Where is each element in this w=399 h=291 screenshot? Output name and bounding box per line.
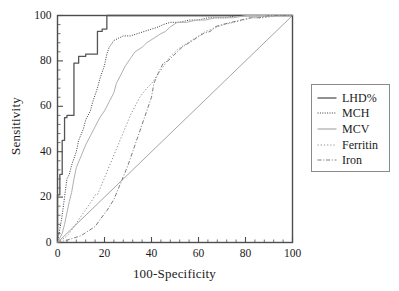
y-tick-label: 60	[22, 99, 52, 111]
legend-line-swatch-icon	[317, 108, 337, 118]
reference-diagonal-line	[58, 16, 293, 243]
x-tick-label: 100	[278, 247, 308, 259]
legend-item-label: Iron	[342, 154, 362, 166]
legend-line-swatch-icon	[317, 155, 337, 165]
legend-item-lhd-[interactable]: LHD%	[312, 90, 389, 106]
legend-line-swatch-icon	[317, 140, 337, 150]
legend-item-mch[interactable]: MCH	[312, 106, 389, 122]
legend-line-swatch-icon	[317, 124, 337, 134]
legend-item-mcv[interactable]: MCV	[312, 121, 389, 137]
x-tick-label: 40	[137, 247, 167, 259]
x-tick-label: 80	[231, 247, 261, 259]
y-axis-title: Sensitivity	[8, 66, 24, 186]
x-tick-label: 60	[184, 247, 214, 259]
y-tick-label: 100	[22, 9, 52, 21]
legend-item-ferritin[interactable]: Ferritin	[312, 137, 389, 153]
y-tick-label: 40	[22, 145, 52, 157]
roc-curve-figure: 100-Specificity Sensitivity 020406080100…	[0, 0, 399, 291]
legend-line-swatch-icon	[317, 93, 337, 103]
x-tick-label: 0	[43, 247, 73, 259]
legend-item-iron[interactable]: Iron	[312, 152, 389, 168]
chart-legend: LHD%MCHMCVFerritinIron	[311, 84, 390, 172]
legend-item-label: LHD%	[342, 92, 377, 104]
x-axis-title: 100-Specificity	[0, 266, 349, 282]
x-tick-label: 20	[90, 247, 120, 259]
legend-item-label: MCH	[342, 107, 369, 119]
y-tick-label: 0	[22, 236, 52, 248]
y-tick-label: 80	[22, 54, 52, 66]
y-tick-label: 20	[22, 190, 52, 202]
legend-item-label: Ferritin	[342, 139, 378, 151]
legend-item-label: MCV	[342, 123, 369, 135]
